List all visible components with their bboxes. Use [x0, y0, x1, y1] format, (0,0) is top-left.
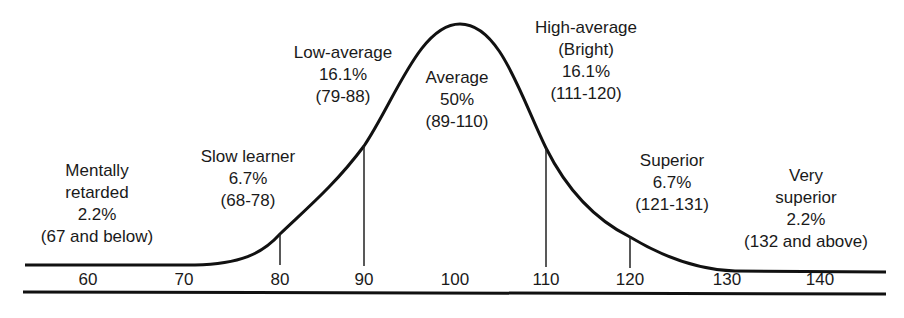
- label-superior: Superior 6.7% (121-131): [635, 150, 709, 216]
- x-axis: [23, 292, 886, 294]
- tick-70: 70: [175, 270, 194, 290]
- label-low-average: Low-average 16.1% (79-88): [294, 42, 392, 108]
- tick-110: 110: [532, 270, 559, 290]
- tick-90: 90: [355, 270, 374, 290]
- tick-130: 130: [713, 270, 741, 290]
- tick-100: 100: [441, 270, 469, 290]
- tick-80: 80: [271, 270, 290, 290]
- label-slow-learner: Slow learner 6.7% (68-78): [201, 146, 296, 212]
- label-very-superior: Very superior 2.2% (132 and above): [744, 165, 868, 253]
- tick-120: 120: [616, 270, 644, 290]
- label-average: Average 50% (89-110): [425, 67, 488, 133]
- tick-60: 60: [79, 270, 98, 290]
- label-high-average: High-average (Bright) 16.1% (111-120): [535, 17, 637, 105]
- label-mentally-retarded: Mentally retarded 2.2% (67 and below): [41, 160, 153, 248]
- tick-140: 140: [806, 270, 834, 290]
